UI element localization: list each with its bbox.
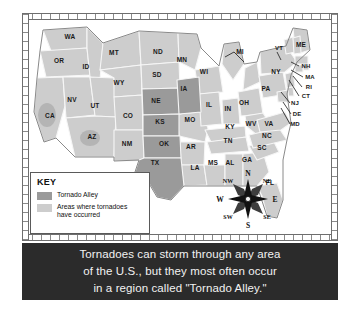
ruler-right-icon bbox=[331, 14, 337, 240]
state-label-AL: AL bbox=[225, 160, 234, 167]
state-label-AR: AR bbox=[186, 144, 196, 151]
state-label-MO: MO bbox=[185, 117, 196, 124]
state-label-NE: NE bbox=[151, 98, 160, 105]
compass-label-SW: SW bbox=[223, 214, 232, 220]
compass-label-W: W bbox=[216, 195, 224, 204]
legend-item-tornado-areas: Areas where tornadoes have occurred bbox=[37, 203, 144, 220]
state-label-KS: KS bbox=[155, 119, 164, 126]
state-label-IL: IL bbox=[206, 102, 212, 109]
state-label-VT: VT bbox=[275, 45, 283, 51]
state-label-NM: NM bbox=[122, 141, 133, 148]
state-label-IA: IA bbox=[181, 86, 188, 93]
map-frame: WA OR CA ID NV UT AZ MT WY CO NM ND SD N… bbox=[22, 13, 338, 241]
state-label-NV: NV bbox=[67, 97, 76, 104]
map-legend: KEY Tornado Alley Areas where tornadoes … bbox=[30, 172, 150, 234]
state-label-CA: CA bbox=[45, 113, 55, 120]
legend-swatch-tornado-areas bbox=[37, 204, 52, 212]
state-label-AZ: AZ bbox=[87, 134, 96, 141]
state-label-NH: NH bbox=[301, 63, 310, 69]
compass-label-S: S bbox=[246, 221, 250, 230]
state-label-PA: PA bbox=[262, 86, 271, 93]
caption-line-1: Tornadoes can storm through any area bbox=[79, 246, 280, 263]
state-label-TX: TX bbox=[151, 160, 160, 167]
state-label-IN: IN bbox=[225, 106, 232, 113]
legend-swatch-tornado-alley bbox=[37, 192, 52, 200]
state-label-OK: OK bbox=[159, 141, 169, 148]
state-label-MD: MD bbox=[290, 121, 300, 127]
legend-item-tornado-alley: Tornado Alley bbox=[37, 191, 144, 200]
state-label-NY: NY bbox=[271, 69, 280, 76]
map-canvas: WA OR CA ID NV UT AZ MT WY CO NM ND SD N… bbox=[29, 20, 331, 234]
state-label-WI: WI bbox=[200, 69, 208, 76]
state-NE-shape bbox=[142, 88, 181, 115]
state-label-GA: GA bbox=[242, 157, 252, 164]
state-label-TN: TN bbox=[223, 138, 232, 145]
state-label-MN: MN bbox=[177, 57, 188, 64]
state-label-NC: NC bbox=[262, 133, 272, 140]
compass-label-NW: NW bbox=[223, 178, 233, 184]
tornado-alley-infographic: WA OR CA ID NV UT AZ MT WY CO NM ND SD N… bbox=[0, 0, 358, 312]
legend-label-tornado-areas: Areas where tornadoes have occurred bbox=[57, 203, 127, 220]
compass-label-SE: SE bbox=[263, 214, 270, 220]
state-label-WY: WY bbox=[114, 80, 125, 87]
compass-label-NE: NE bbox=[263, 178, 271, 184]
state-label-VA: VA bbox=[265, 121, 274, 128]
state-label-OH: OH bbox=[239, 100, 249, 107]
state-label-CO: CO bbox=[123, 113, 133, 120]
state-label-LA: LA bbox=[190, 165, 199, 172]
caption-line-3: in a region called "Tornado Alley." bbox=[93, 280, 266, 297]
caption-line-2: of the U.S., but they most often occur bbox=[83, 263, 277, 280]
state-label-MA: MA bbox=[305, 74, 315, 80]
state-label-WV: WV bbox=[246, 121, 257, 128]
state-label-WA: WA bbox=[65, 34, 76, 41]
state-label-SD: SD bbox=[152, 72, 161, 79]
state-label-SC: SC bbox=[257, 145, 266, 152]
state-label-CT: CT bbox=[302, 93, 310, 99]
state-label-MS: MS bbox=[208, 160, 218, 167]
legend-label-tornado-alley: Tornado Alley bbox=[57, 191, 98, 199]
legend-title: KEY bbox=[37, 177, 144, 187]
state-label-OR: OR bbox=[54, 58, 64, 65]
state-label-ND: ND bbox=[153, 49, 163, 56]
state-label-ID: ID bbox=[83, 64, 90, 71]
state-label-UT: UT bbox=[90, 103, 99, 110]
caption-bar: Tornadoes can storm through any area of … bbox=[22, 243, 338, 300]
compass-label-E: E bbox=[272, 195, 277, 204]
state-label-MT: MT bbox=[109, 50, 119, 57]
state-label-RI: RI bbox=[306, 84, 312, 90]
compass-label-N: N bbox=[245, 169, 250, 178]
state-label-ME: ME bbox=[296, 42, 306, 49]
state-label-MI: MI bbox=[236, 49, 244, 56]
compass-rose: N NE E SE S SW W NW bbox=[215, 168, 281, 230]
state-label-NJ: NJ bbox=[291, 100, 299, 106]
state-IA-shape bbox=[177, 77, 201, 114]
ruler-bottom-icon bbox=[23, 234, 337, 240]
state-label-KY: KY bbox=[225, 124, 234, 131]
state-label-DE: DE bbox=[293, 111, 302, 117]
